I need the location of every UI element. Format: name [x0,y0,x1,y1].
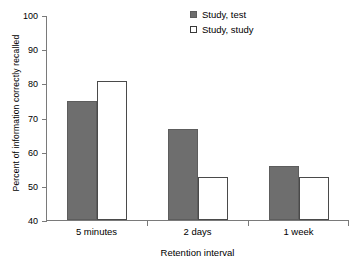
y-axis-tick [42,84,47,85]
plot-area [46,16,349,221]
legend-swatch-open-square-icon [190,26,197,33]
legend-label: Study, study [202,24,254,35]
bar [299,177,329,220]
legend-swatch-filled-square-icon [190,11,197,18]
y-axis-tick-label: 60 [12,149,38,158]
legend-item-study-test: Study, test [190,7,254,22]
x-axis-line [46,220,349,221]
bar [67,101,97,220]
bar [97,81,127,220]
y-axis-tick [42,153,47,154]
bar [269,166,299,220]
y-axis-tick [42,16,47,17]
bar-chart: Percent of information correctly recalle… [0,0,359,264]
y-axis-tick-label: 90 [12,46,38,55]
y-axis-tick-label: 80 [12,80,38,89]
y-axis-tick-label: 100 [12,12,38,21]
legend: Study, test Study, study [190,7,254,37]
bar [168,129,198,220]
y-axis-tick-label: 70 [12,115,38,124]
y-axis-tick-label: 40 [12,217,38,226]
y-axis-tick [42,221,47,222]
bar [198,177,228,220]
x-axis-title: Retention interval [46,247,349,258]
legend-label: Study, test [202,9,246,20]
y-axis-tick [42,119,47,120]
y-axis-tick [42,50,47,51]
legend-item-study-study: Study, study [190,22,254,37]
x-axis-tick-label: 5 minutes [47,226,147,237]
x-axis-tick-label: 1 week [249,226,349,237]
y-axis-tick-label: 50 [12,183,38,192]
x-axis-tick-label: 2 days [148,226,248,237]
y-axis-tick [42,187,47,188]
